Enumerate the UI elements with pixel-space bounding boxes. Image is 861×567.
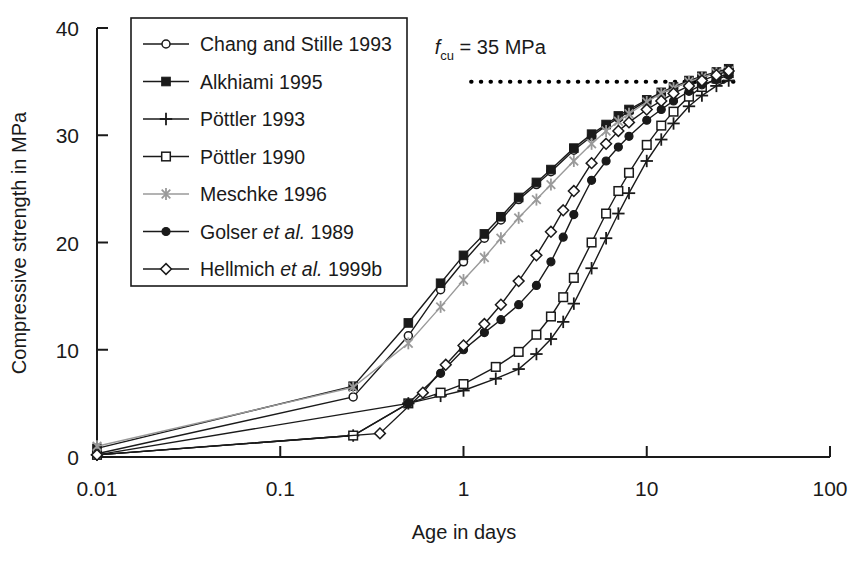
marker-square-open bbox=[625, 168, 634, 177]
marker-circle-filled bbox=[614, 143, 622, 151]
legend-label: Pöttler 1990 bbox=[200, 146, 305, 168]
x-tick-label-2: 1 bbox=[458, 477, 470, 500]
marker-square-open bbox=[642, 141, 651, 150]
marker-square-open bbox=[657, 121, 666, 130]
marker-circle-filled bbox=[547, 258, 555, 266]
marker-square-open bbox=[532, 330, 541, 339]
marker-square-filled bbox=[532, 178, 541, 187]
x-tick-label-4: 100 bbox=[812, 477, 847, 500]
marker-square-filled bbox=[497, 212, 506, 221]
legend-label: Meschke 1996 bbox=[200, 183, 327, 205]
marker-circle-filled bbox=[497, 316, 505, 324]
marker-square-open bbox=[491, 363, 500, 372]
marker-square-filled bbox=[459, 251, 468, 260]
legend-label: Alkhiami 1995 bbox=[200, 71, 323, 93]
legend-label: Chang and Stille 1993 bbox=[200, 33, 392, 55]
legend-label: Golser et al. 1989 bbox=[200, 221, 354, 243]
marker-square-open bbox=[162, 152, 171, 161]
marker-square-open bbox=[559, 293, 568, 302]
marker-circle-filled bbox=[625, 132, 633, 140]
marker-square-open bbox=[669, 107, 678, 116]
marker-square-open bbox=[602, 209, 611, 218]
x-axis-title: Age in days bbox=[412, 521, 517, 543]
marker-square-filled bbox=[162, 77, 171, 86]
y-axis-title: Compressive strength in MPa bbox=[8, 111, 30, 374]
marker-square-open bbox=[570, 274, 579, 283]
marker-circle-filled bbox=[162, 228, 170, 236]
x-tick-label-1: 0.1 bbox=[266, 477, 295, 500]
y-tick-label-2: 20 bbox=[56, 232, 79, 255]
marker-circle-filled bbox=[559, 233, 567, 241]
chart-svg: 0.010.1110100 010203040 Age in days Comp… bbox=[0, 0, 861, 567]
marker-square-filled bbox=[547, 165, 556, 174]
marker-circle-filled bbox=[602, 157, 610, 165]
legend-label: Hellmich et al. 1999b bbox=[200, 258, 382, 280]
marker-circle-filled bbox=[515, 301, 523, 309]
y-tick-label-4: 40 bbox=[56, 17, 79, 40]
marker-square-open bbox=[514, 348, 523, 357]
y-tick-label-1: 10 bbox=[56, 339, 79, 362]
marker-circle-open bbox=[349, 393, 357, 401]
marker-circle-filled bbox=[588, 176, 596, 184]
x-tick-label-0: 0.01 bbox=[77, 477, 118, 500]
marker-circle-filled bbox=[570, 211, 578, 219]
y-tick-label-3: 30 bbox=[56, 124, 79, 147]
y-tick-label-0: 0 bbox=[67, 446, 79, 469]
marker-square-open bbox=[547, 312, 556, 321]
marker-square-filled bbox=[587, 130, 596, 139]
marker-square-filled bbox=[514, 193, 523, 202]
marker-square-open bbox=[614, 187, 623, 196]
marker-square-filled bbox=[404, 319, 413, 328]
marker-square-filled bbox=[436, 279, 445, 288]
marker-circle-filled bbox=[643, 116, 651, 124]
chart-background bbox=[0, 0, 861, 567]
compressive-strength-chart: 0.010.1110100 010203040 Age in days Comp… bbox=[0, 0, 861, 567]
marker-square-open bbox=[459, 380, 468, 389]
marker-square-open bbox=[436, 388, 445, 397]
marker-square-filled bbox=[480, 230, 489, 239]
legend: Chang and Stille 1993Alkhiami 1995Pöttle… bbox=[131, 18, 407, 286]
legend-label: Pöttler 1993 bbox=[200, 108, 305, 130]
marker-circle-open bbox=[162, 40, 170, 48]
marker-circle-filled bbox=[532, 281, 540, 289]
x-tick-label-3: 10 bbox=[635, 477, 658, 500]
marker-square-open bbox=[587, 238, 596, 247]
marker-square-filled bbox=[570, 144, 579, 153]
